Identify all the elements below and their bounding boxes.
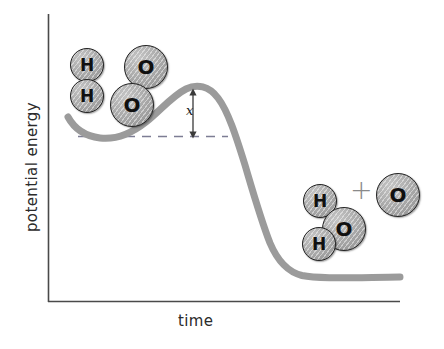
- chart-canvas: [0, 0, 444, 349]
- x-axis-label: time: [178, 312, 214, 330]
- plus-sign: +: [350, 176, 373, 203]
- y-axis-label: potential energy: [23, 87, 41, 247]
- product-free-oxygen-atom: O: [376, 173, 420, 217]
- reactant-oxygen-atom-bottom: O: [110, 83, 154, 127]
- potential-energy-diagram: potential energy time x H H O O H O H + …: [0, 0, 444, 349]
- activation-energy-label: x: [186, 104, 193, 117]
- product-hydrogen-atom-bottom: H: [302, 227, 336, 261]
- reactant-hydrogen-atom-top: H: [70, 48, 104, 82]
- reactant-hydrogen-atom-bottom: H: [70, 79, 104, 113]
